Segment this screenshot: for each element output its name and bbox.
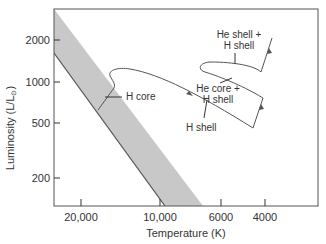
annot-he-core-line2: H shell bbox=[203, 94, 234, 105]
y-axis-title: Luminosity (L/L⊙) bbox=[4, 86, 17, 170]
x-tick-10000: 10,000 bbox=[143, 211, 177, 223]
annot-h-core: H core bbox=[126, 91, 156, 102]
annot-h-shell: H shell bbox=[186, 122, 217, 133]
x-tick-20000: 20,000 bbox=[64, 211, 98, 223]
x-tick-6000: 6000 bbox=[209, 211, 233, 223]
y-tick-200: 200 bbox=[32, 172, 50, 184]
main-sequence-band bbox=[54, 9, 203, 206]
y-tick-2000: 2000 bbox=[26, 34, 50, 46]
hr-diagram-chart: 2000 1000 500 200 20,000 10,000 6000 400… bbox=[0, 0, 326, 244]
track-arrow-1 bbox=[186, 91, 193, 96]
annot-he-core-line1: He core + bbox=[196, 83, 240, 94]
x-axis-title: Temperature (K) bbox=[146, 227, 225, 239]
annot-he-shell-line1: He shell + bbox=[217, 29, 262, 40]
x-tick-4000: 4000 bbox=[253, 211, 277, 223]
y-tick-1000: 1000 bbox=[26, 76, 50, 88]
annot-he-shell-line2: H shell bbox=[224, 40, 255, 51]
y-tick-500: 500 bbox=[32, 117, 50, 129]
